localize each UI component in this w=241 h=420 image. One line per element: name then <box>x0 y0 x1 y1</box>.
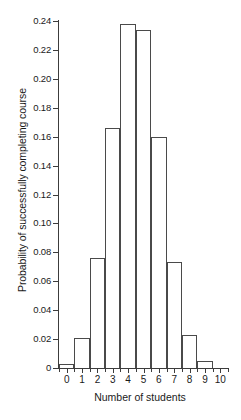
histogram-figure: Probability of successfully completing c… <box>0 0 241 420</box>
y-axis-tick-labels: 00.020.040.060.080.100.120.140.160.180.2… <box>2 0 51 420</box>
y-axis-tick-label: 0.12 <box>5 190 51 200</box>
x-axis-tick <box>220 369 221 373</box>
y-axis-tick-label: 0.20 <box>5 74 51 84</box>
histogram-bar <box>136 30 151 368</box>
y-axis-tick-label: 0.16 <box>5 132 51 142</box>
x-axis-minor-tick <box>151 369 152 372</box>
y-axis-tick <box>53 339 58 340</box>
x-axis-tick <box>128 369 129 373</box>
y-axis-tick-label: 0.14 <box>5 161 51 171</box>
x-axis-tick <box>82 369 83 373</box>
histogram-bar <box>105 128 120 368</box>
x-axis-minor-tick <box>213 369 214 372</box>
x-axis-tick-label: 10 <box>209 374 231 386</box>
y-axis-tick <box>53 166 58 167</box>
y-axis-tick-label: 0.06 <box>5 276 51 286</box>
x-axis-minor-tick <box>167 369 168 372</box>
y-axis-tick-label: 0.24 <box>5 16 51 26</box>
y-axis-tick-label: 0.04 <box>5 305 51 315</box>
x-axis-minor-tick <box>90 369 91 372</box>
y-axis-tick-label: 0 <box>5 363 51 373</box>
x-axis-tick <box>144 369 145 373</box>
x-axis-minor-tick <box>59 369 60 372</box>
histogram-bar <box>120 24 135 368</box>
y-axis-tick <box>53 79 58 80</box>
y-axis-tick <box>53 137 58 138</box>
y-axis-tick-label: 0.02 <box>5 334 51 344</box>
x-axis-tick <box>97 369 98 373</box>
y-axis-tick <box>53 223 58 224</box>
x-axis-tick <box>190 369 191 373</box>
histogram-bar <box>59 364 74 368</box>
x-axis-minor-tick <box>182 369 183 372</box>
x-axis-minor-tick <box>74 369 75 372</box>
y-axis-tick <box>53 50 58 51</box>
y-axis-tick <box>53 310 58 311</box>
x-axis-tick <box>67 369 68 373</box>
histogram-bar <box>151 137 166 368</box>
histogram-bar <box>90 258 105 368</box>
histogram-bar <box>197 361 212 368</box>
x-axis-tick <box>205 369 206 373</box>
histogram-bar <box>167 262 182 368</box>
y-axis-tick-label: 0.18 <box>5 103 51 113</box>
histogram-bar <box>182 335 197 368</box>
x-axis-minor-tick <box>228 369 229 372</box>
x-axis-tick <box>159 369 160 373</box>
y-axis-tick <box>53 21 58 22</box>
x-axis-minor-tick <box>136 369 137 372</box>
y-axis-tick <box>53 281 58 282</box>
x-axis-label: Number of students <box>45 391 235 404</box>
y-axis-tick-label: 0.08 <box>5 247 51 257</box>
y-axis-tick <box>53 195 58 196</box>
x-axis-minor-tick <box>197 369 198 372</box>
y-axis-tick <box>53 368 58 369</box>
x-axis-tick <box>113 369 114 373</box>
plot-area <box>59 21 228 368</box>
y-axis-tick <box>53 252 58 253</box>
x-axis-minor-tick <box>120 369 121 372</box>
x-axis-minor-tick <box>105 369 106 372</box>
y-axis-tick-label: 0.22 <box>5 45 51 55</box>
histogram-bar <box>74 338 89 368</box>
y-axis-tick <box>53 108 58 109</box>
x-axis-tick <box>174 369 175 373</box>
y-axis-tick-label: 0.10 <box>5 218 51 228</box>
